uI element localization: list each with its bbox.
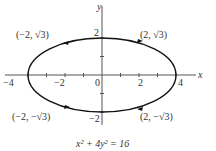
x-tick-label: 2 xyxy=(138,78,143,88)
point-label: (2, √3) xyxy=(140,30,167,40)
point-label: (2, −√3) xyxy=(140,112,173,122)
x-tick-label: −2 xyxy=(54,78,65,88)
y-axis-label: y xyxy=(97,2,101,12)
equation-caption: x² + 4y² = 16 xyxy=(76,139,129,149)
point-label: (−2, √3) xyxy=(16,30,49,40)
ellipse-graph xyxy=(0,0,216,151)
x-tick-label: 0 xyxy=(95,78,100,88)
x-tick-label: 4 xyxy=(178,78,183,88)
y-tick-label: 2 xyxy=(94,28,99,38)
x-tick-label: −4 xyxy=(3,78,14,88)
y-tick-label: −2 xyxy=(89,114,100,124)
point-label: (−2, −√3) xyxy=(12,112,50,122)
x-axis-label: x xyxy=(198,70,202,80)
